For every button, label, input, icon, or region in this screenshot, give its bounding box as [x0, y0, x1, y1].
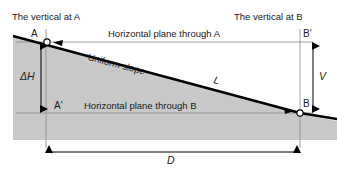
point-marker-b	[297, 110, 303, 116]
label-horizontal-plane-a: Horizontal plane through A	[108, 29, 220, 39]
ground-fill	[13, 37, 337, 140]
label-horizontal-d: D	[167, 155, 175, 166]
point-marker-a	[44, 39, 50, 45]
label-vertical-v: V	[319, 71, 326, 82]
label-vertical-at-b: The vertical at B	[234, 12, 303, 22]
label-vertical-at-a: The vertical at A	[12, 12, 80, 22]
label-point-a: A	[31, 29, 38, 39]
diagram-canvas	[0, 0, 337, 176]
slope-diagram: The vertical at A The vertical at B Hori…	[0, 0, 337, 176]
label-point-b: B	[303, 99, 310, 109]
label-delta-h: ΔH	[20, 71, 35, 82]
leader-arrow-a	[53, 40, 63, 46]
label-point-b-prime: B'	[303, 29, 312, 39]
label-point-a-prime: A'	[54, 101, 63, 111]
label-horizontal-plane-b: Horizontal plane through B	[84, 101, 197, 111]
